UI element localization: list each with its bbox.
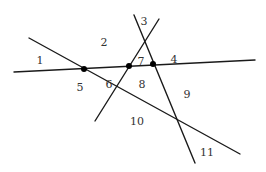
line-a [14,60,255,72]
region-label-6: 6 [106,78,113,91]
line-b [29,38,240,154]
region-label-11: 11 [200,146,214,159]
line-c [95,19,159,121]
region-label-4: 4 [171,53,178,66]
region-label-10: 10 [130,115,144,128]
intersection-point-1 [81,66,87,72]
region-label-1: 1 [37,54,44,67]
region-label-2: 2 [101,36,108,49]
intersection-point-3 [150,61,156,67]
line-arrangement-diagram: 1 2 3 4 5 6 7 8 9 10 11 [0,0,266,172]
region-label-3: 3 [141,15,148,28]
region-label-9: 9 [184,88,191,101]
region-label-5: 5 [77,81,84,94]
region-label-8: 8 [139,78,146,91]
region-label-7: 7 [138,55,145,68]
region-labels: 1 2 3 4 5 6 7 8 9 10 11 [37,15,215,159]
lines-group [14,15,255,163]
intersection-point-2 [126,63,132,69]
